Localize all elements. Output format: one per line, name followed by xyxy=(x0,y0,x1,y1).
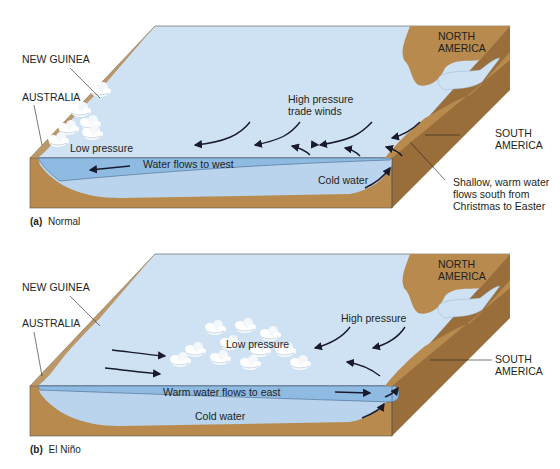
label-north-america-2: AMERICA xyxy=(438,42,486,54)
el-nino-diagram: NEW GUINEA AUSTRALIA NORTH AMERICA SOUTH… xyxy=(0,0,560,469)
caption-b-title: El Niño xyxy=(49,444,82,455)
label-high-pressure: High pressure xyxy=(341,312,407,324)
label-australia: AUSTRALIA xyxy=(22,317,80,329)
caption-a-letter: (a) xyxy=(30,216,42,227)
caption-b: (b) El Niño xyxy=(30,444,81,455)
note-line-1: Shallow, warm water xyxy=(453,176,550,188)
note-line-3: Christmas to Easter xyxy=(453,200,546,212)
label-warm-water-flow: Warm water flows to east xyxy=(163,386,281,398)
panel-el-nino: NEW GUINEA AUSTRALIA NORTH AMERICA SOUTH… xyxy=(22,254,543,455)
label-south-america-1: SOUTH xyxy=(495,353,532,365)
label-south-america-2: AMERICA xyxy=(495,365,543,377)
label-low-pressure: Low pressure xyxy=(70,142,133,154)
panel-normal: NEW GUINEA AUSTRALIA NORTH AMERICA SOUTH… xyxy=(22,26,550,227)
caption-a-title: Normal xyxy=(48,216,80,227)
note-line-2: flows south from xyxy=(453,188,530,200)
label-north-america-1: NORTH xyxy=(438,258,475,270)
label-high-pressure-1: High pressure xyxy=(288,93,354,105)
label-north-america-2: AMERICA xyxy=(438,270,486,282)
label-cold-water: Cold water xyxy=(195,410,246,422)
label-new-guinea: NEW GUINEA xyxy=(22,53,90,65)
label-cold-water: Cold water xyxy=(318,174,369,186)
label-water-flow: Water flows to west xyxy=(143,158,234,170)
caption-a: (a) Normal xyxy=(30,216,80,227)
caption-b-letter: (b) xyxy=(30,444,43,455)
label-australia: AUSTRALIA xyxy=(22,91,80,103)
label-low-pressure: Low pressure xyxy=(226,338,289,350)
label-new-guinea: NEW GUINEA xyxy=(22,281,90,293)
label-south-america-2: AMERICA xyxy=(495,139,543,151)
label-south-america-1: SOUTH xyxy=(495,127,532,139)
label-north-america-1: NORTH xyxy=(438,30,475,42)
label-high-pressure-2: trade winds xyxy=(288,105,342,117)
